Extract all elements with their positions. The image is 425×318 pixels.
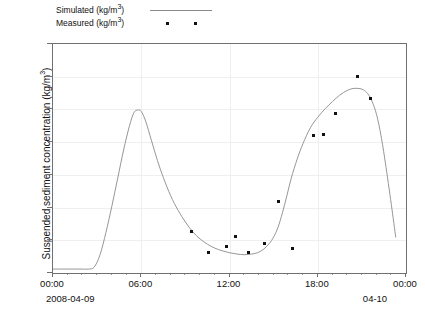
x-tick-label: 00:00: [375, 278, 425, 289]
legend-entry-simulated: Simulated (kg/m3): [56, 4, 256, 17]
measured-data-point: [263, 242, 266, 245]
measured-data-point: [225, 245, 228, 248]
page-caption-strip: [0, 310, 425, 318]
measured-data-point: [234, 235, 237, 238]
chart-figure: Simulated (kg/m3) Measured (kg/m3) Suspe…: [0, 0, 425, 318]
legend-marker-swatch-1: [166, 22, 169, 25]
x-axis-date-start: 2008-04-09: [46, 293, 95, 304]
plot-inner: [53, 44, 406, 273]
y-axis-title: Suspended sediment concentration (kg/m3): [41, 44, 52, 284]
measured-data-point: [277, 200, 280, 203]
x-tick-label: 00:00: [22, 278, 82, 289]
x-tick-label: 06:00: [110, 278, 170, 289]
measured-data-point: [207, 251, 210, 254]
legend-label-measured: Measured (kg/m3): [56, 17, 124, 30]
measured-data-point: [369, 97, 372, 100]
x-tick-label: 12:00: [199, 278, 259, 289]
measured-data-point: [312, 134, 315, 137]
plot-area: [52, 43, 407, 274]
legend-sample-markers: [150, 17, 214, 30]
chart-legend: Simulated (kg/m3) Measured (kg/m3): [56, 4, 256, 32]
legend-line-swatch: [150, 10, 212, 11]
x-axis-date-end: 04-10: [345, 293, 405, 304]
x-tick-label: 18:00: [287, 278, 347, 289]
measured-data-point: [322, 133, 325, 136]
measured-data-point: [356, 75, 359, 78]
simulated-series-line: [53, 44, 406, 273]
measured-data-point: [190, 230, 193, 233]
legend-sample-line: [150, 4, 214, 17]
legend-entry-measured: Measured (kg/m3): [56, 17, 256, 30]
measured-data-point: [334, 112, 337, 115]
legend-marker-swatch-2: [194, 22, 197, 25]
legend-label-simulated: Simulated (kg/m3): [56, 4, 124, 17]
measured-data-point: [291, 247, 294, 250]
measured-data-point: [247, 251, 250, 254]
